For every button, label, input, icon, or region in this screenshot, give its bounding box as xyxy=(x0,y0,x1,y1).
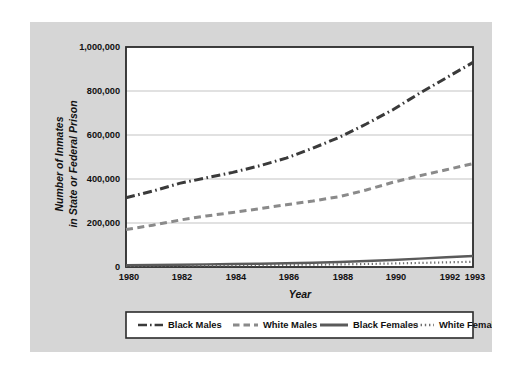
y-tick-label-400000: 400,000 xyxy=(87,174,120,184)
x-axis-tick-labels: 1980 1982 1984 1986 1988 1990 1992 1993 xyxy=(119,272,485,282)
x-tick-label-1988: 1988 xyxy=(333,272,353,282)
y-axis-title-line-1: Number of Inmates xyxy=(53,116,65,211)
x-tick-label-1990: 1990 xyxy=(386,272,406,282)
y-tick-label-600000: 600,000 xyxy=(87,130,120,140)
x-tick-label-1986: 1986 xyxy=(279,272,299,282)
x-tick-label-1980: 1980 xyxy=(119,272,139,282)
y-axis-title: Number of Inmates in State or Federal Pr… xyxy=(53,100,79,227)
y-tick-label-200000: 200,000 xyxy=(87,218,120,228)
x-tick-label-1982: 1982 xyxy=(172,272,192,282)
plot-background xyxy=(126,47,473,267)
y-axis-title-line-2: in State or Federal Prison xyxy=(67,100,79,227)
legend-label-white-males: White Males xyxy=(263,319,317,330)
x-tick-label-1984: 1984 xyxy=(226,272,247,282)
y-tick-label-800000: 800,000 xyxy=(87,86,120,96)
x-tick-label-1992: 1992 xyxy=(440,272,460,282)
x-axis-title: Year xyxy=(289,288,312,300)
y-tick-label-0: 0 xyxy=(115,262,120,272)
chart-card: 1,000,000 800,000 600,000 400,000 200,00… xyxy=(30,22,492,352)
x-tick-label-1993: 1993 xyxy=(465,272,485,282)
y-tick-label-1000000: 1,000,000 xyxy=(79,42,120,52)
chart-legend: Black Males White Males Black Females Wh… xyxy=(126,312,492,338)
legend-label-black-males: Black Males xyxy=(168,319,222,330)
y-axis-tick-labels: 1,000,000 800,000 600,000 400,000 200,00… xyxy=(79,42,120,272)
page-edge-artifact xyxy=(508,330,522,352)
prison-population-line-chart: 1,000,000 800,000 600,000 400,000 200,00… xyxy=(30,22,492,352)
legend-label-white-females: White Females xyxy=(439,319,492,330)
